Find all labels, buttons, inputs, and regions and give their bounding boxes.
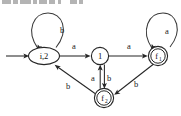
state-node-q1[interactable]: 1 [91,47,108,64]
edge-f1-self-loop: a [146,13,177,49]
edge-label-f1-self: a [165,26,169,36]
state-node-i2[interactable]: i,2 [29,47,60,64]
edge-label-q1-f1: a [127,41,131,51]
state-label-q1: 1 [98,51,102,61]
state-label-f2: f [101,94,104,103]
edge-label-i2-self: b [60,25,64,35]
automaton-figure: b 1 --> a f1 --> a a f2 (vertical down, … [0,0,181,116]
edge-i2-self-loop: b [32,13,64,50]
edge-label-q1-f2: b [107,73,111,83]
edge-f1-to-f2: b [114,65,153,95]
edge-q1-to-f2: b [102,65,111,89]
state-node-f1[interactable]: f 1 [148,46,167,65]
automaton-graph: b 1 --> a f1 --> a a f2 (vertical down, … [0,0,181,116]
edge-q1-to-f1: a [109,41,148,59]
edge-i2-to-q1: a [60,41,91,59]
edge-label-f2-q1: a [91,73,95,83]
edge-label-i2-q1: a [72,41,76,51]
state-sublabel-f2: 2 [105,98,108,104]
state-sublabel-f1: 1 [159,56,162,62]
state-label-i2: i,2 [40,51,49,61]
edge-f2-to-q1: a [91,65,103,89]
edge-initial-arrow [6,53,29,58]
state-label-f1: f [155,52,158,61]
state-node-f2[interactable]: f 2 [94,88,113,107]
edge-label-f1-f2: b [134,79,138,89]
edge-f2-to-i2: b [55,65,95,94]
edge-label-f2-i2: b [66,81,70,91]
